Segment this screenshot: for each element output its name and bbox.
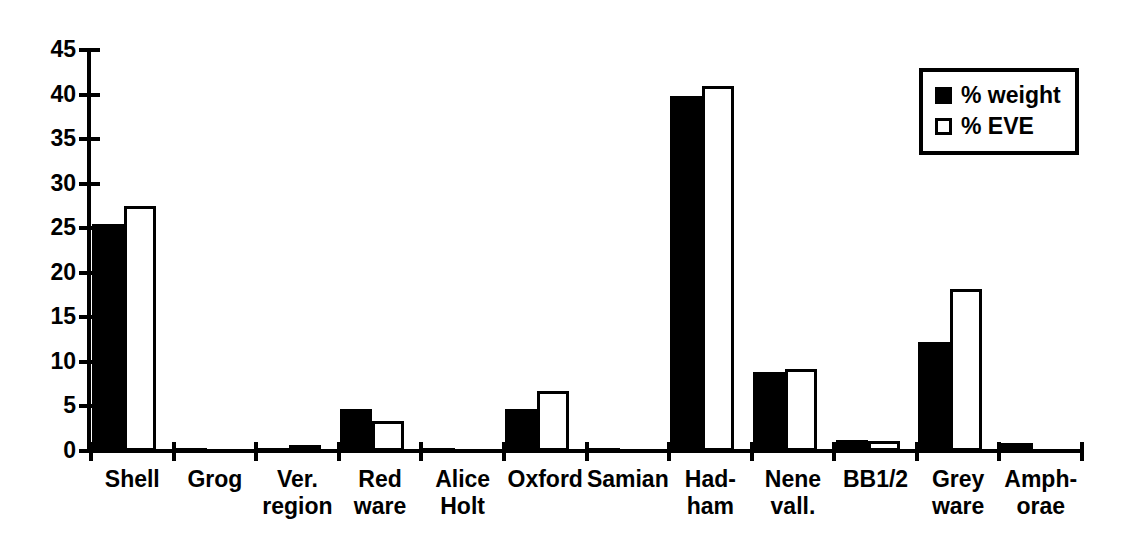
y-axis-tick-label-wrap: 15 [16,317,76,318]
y-axis-tick-label-wrap: 10 [16,362,76,363]
legend-label-eve: % EVE [961,115,1034,138]
y-axis-tick-label: 40 [32,83,76,106]
y-axis-tick-label: 25 [32,216,76,239]
bar-chart: 051015202530354045 ShellGrogVer. regionR… [0,0,1125,537]
bar-group [256,50,339,451]
bar-weight [340,409,372,451]
y-axis-tick-label-wrap: 40 [16,95,76,96]
y-axis-tick-label-wrap: 25 [16,228,76,229]
bar-group [339,50,422,451]
y-axis-tick-label-wrap: 5 [16,406,76,407]
bar-weight [175,448,207,451]
outlined-square-icon [935,118,952,135]
bar-eve [537,391,569,451]
y-axis-tick-label: 20 [32,261,76,284]
y-axis-tick-label-wrap: 30 [16,184,76,185]
filled-square-icon [935,87,952,104]
y-axis-tick-label-wrap: 45 [16,50,76,51]
bar-group [504,50,587,451]
x-axis-category-label: Amph- orae [987,466,1094,520]
bar-weight [92,224,124,451]
y-axis-tick-label: 30 [32,172,76,195]
bar-eve [372,421,404,451]
bar-eve [950,289,982,451]
bar-weight [423,448,455,451]
chart-legend: % weight % EVE [919,68,1079,155]
bar-eve [124,206,156,451]
bar-eve [785,369,817,451]
bar-weight [588,448,620,451]
bar-weight [257,448,289,451]
y-axis-tick-label: 45 [32,38,76,61]
y-axis-tick-label: 10 [32,350,76,373]
legend-item-weight: % weight [935,80,1061,111]
bar-group [834,50,917,451]
legend-label-weight: % weight [961,84,1061,107]
y-axis-tick-label: 5 [32,394,76,417]
bar-weight [836,440,868,451]
bar-weight [1001,443,1033,451]
bar-weight [505,409,537,451]
bar-group [752,50,835,451]
y-axis-tick-label: 35 [32,127,76,150]
bar-eve [702,86,734,451]
y-axis-tick-label-wrap: 35 [16,139,76,140]
bar-group [174,50,257,451]
y-axis-tick-label: 0 [32,439,76,462]
bar-eve [289,445,321,451]
bar-weight [918,342,950,451]
y-axis-tick-label-wrap: 0 [16,451,76,452]
legend-item-eve: % EVE [935,111,1061,142]
y-axis-tick-label: 15 [32,305,76,328]
bar-group [421,50,504,451]
bar-weight [670,96,702,451]
bar-group [669,50,752,451]
bar-eve [868,441,900,451]
bar-group [91,50,174,451]
y-axis-tick-label-wrap: 20 [16,273,76,274]
bar-weight [753,372,785,451]
bar-group [587,50,670,451]
